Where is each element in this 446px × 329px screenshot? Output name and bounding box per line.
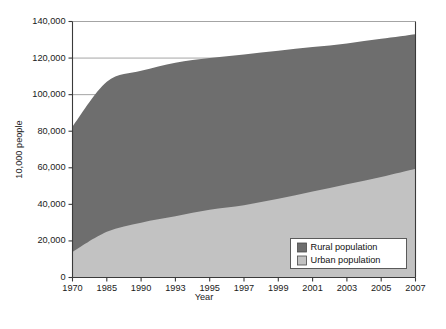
- y-tick-label: 60,000: [37, 162, 65, 172]
- y-axis-title: 10,000 people: [14, 120, 24, 178]
- y-tick-label: 40,000: [37, 199, 65, 209]
- legend-label: Urban population: [311, 255, 381, 265]
- y-tick-label: 20,000: [37, 235, 65, 245]
- x-tick-label: 1985: [97, 283, 117, 293]
- chart-legend: Rural populationUrban population: [291, 239, 407, 269]
- x-tick-label: 1999: [268, 283, 288, 293]
- y-axis-tick-group: 020,00040,00060,00080,000100,000120,0001…: [32, 16, 72, 282]
- x-tick-label: 2001: [302, 283, 322, 293]
- x-tick-label: 1997: [234, 283, 254, 293]
- legend-label: Rural population: [311, 242, 378, 252]
- y-tick-label: 140,000: [32, 16, 65, 26]
- x-tick-label: 1970: [62, 283, 82, 293]
- x-axis-title: Year: [195, 292, 214, 302]
- legend-swatch: [298, 243, 307, 252]
- legend-swatch: [298, 256, 307, 265]
- y-tick-label: 80,000: [37, 126, 65, 136]
- y-tick-label: 0: [60, 272, 65, 282]
- x-tick-label: 1990: [131, 283, 151, 293]
- stacked-area-chart: 020,00040,00060,00080,000100,000120,0001…: [0, 0, 446, 329]
- y-tick-label: 100,000: [32, 89, 65, 99]
- x-tick-label: 2003: [337, 283, 357, 293]
- y-tick-label: 120,000: [32, 53, 65, 63]
- x-tick-label: 1993: [165, 283, 185, 293]
- x-tick-label: 2007: [405, 283, 425, 293]
- chart-canvas: 020,00040,00060,00080,000100,000120,0001…: [0, 0, 446, 329]
- x-tick-label: 2005: [371, 283, 391, 293]
- x-axis-tick-group: 1970198519901993199519971999200120032005…: [62, 278, 425, 293]
